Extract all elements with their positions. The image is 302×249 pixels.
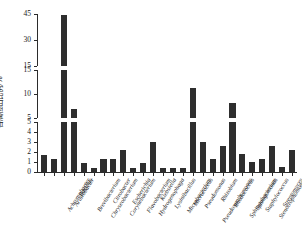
x-axis-labels: AchromobacterArthrobacterBacillusBreviba… [0, 0, 302, 249]
bar-chart: 各属检出比例/% 01234551015153045 Achromobacter… [0, 0, 302, 249]
